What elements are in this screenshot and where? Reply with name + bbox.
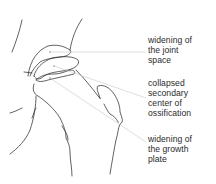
label-joint-space: widening of the joint space	[148, 35, 192, 65]
pelvis-outline-left	[12, 20, 22, 52]
leader-line-growth-plate	[50, 78, 146, 142]
acetabulum-cap	[28, 45, 71, 76]
femoral-head-fragment	[36, 70, 75, 82]
ossification-center	[34, 57, 79, 79]
label-growth-plate: widening of the growth plate	[148, 134, 192, 164]
femoral-shaft-bump	[62, 126, 68, 140]
greater-trochanter	[97, 85, 122, 174]
femoral-neck-lower	[33, 84, 72, 176]
femoral-neck-upper	[76, 70, 100, 99]
pelvis-tick-lower	[10, 108, 22, 113]
label-ossification-center: collapsed secondary center of ossificati…	[148, 78, 191, 118]
leader-line-ossification	[54, 66, 146, 98]
pelvis-lower-left	[10, 96, 36, 154]
pelvis-outline-right	[70, 19, 82, 50]
trochanter-inner	[104, 104, 118, 122]
pelvis-tick	[24, 72, 32, 73]
